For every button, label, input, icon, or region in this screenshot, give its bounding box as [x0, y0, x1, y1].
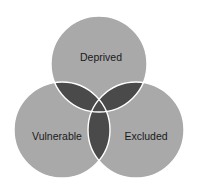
venn-diagram: Deprived Vulnerable Excluded	[0, 0, 197, 196]
label-deprived: Deprived	[80, 51, 122, 63]
label-excluded: Excluded	[124, 130, 167, 142]
label-vulnerable: Vulnerable	[32, 130, 82, 142]
